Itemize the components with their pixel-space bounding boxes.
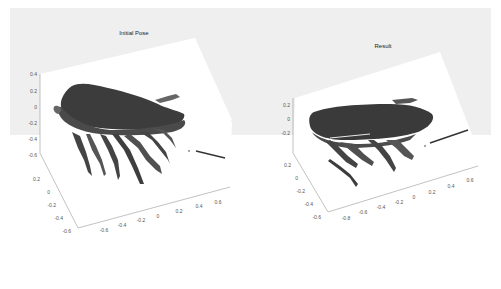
- svg-text:0.2: 0.2: [30, 88, 37, 94]
- figure-canvas: Initial Pose 0.4 0.2 0 -0.2 -0.4 -0.6 0.…: [0, 0, 501, 289]
- svg-text:0.4: 0.4: [196, 203, 203, 209]
- svg-text:0: 0: [287, 116, 290, 122]
- plot-title: Result: [374, 43, 391, 49]
- svg-text:-0.4: -0.4: [118, 222, 127, 228]
- svg-text:0.4: 0.4: [30, 71, 37, 77]
- svg-text:-0.8: -0.8: [342, 215, 351, 221]
- svg-text:-0.2: -0.2: [395, 199, 404, 205]
- svg-text:0.2: 0.2: [176, 208, 183, 214]
- svg-text:0.4: 0.4: [448, 183, 455, 189]
- svg-text:-0.4: -0.4: [304, 201, 313, 207]
- svg-text:-0.6: -0.6: [28, 152, 37, 158]
- svg-text:0: 0: [34, 104, 37, 110]
- svg-text:-0.6: -0.6: [312, 214, 321, 220]
- svg-text:-0.2: -0.2: [47, 202, 56, 208]
- svg-text:0: 0: [295, 175, 298, 181]
- svg-text:0: 0: [413, 194, 416, 200]
- svg-text:0.2: 0.2: [284, 162, 291, 168]
- svg-text:-0.4: -0.4: [28, 136, 37, 142]
- svg-text:-0.2: -0.2: [296, 188, 305, 194]
- svg-text:-0.4: -0.4: [54, 215, 63, 221]
- svg-text:-0.2: -0.2: [28, 120, 37, 126]
- svg-text:0: 0: [157, 213, 160, 219]
- svg-text:0: 0: [47, 189, 50, 195]
- x-axis-ticks: -0.6 -0.4 -0.2 0 0.2 0.4 0.6: [100, 199, 222, 233]
- svg-text:-0.6: -0.6: [62, 228, 71, 234]
- svg-text:0.2: 0.2: [33, 176, 40, 182]
- plot-title: Initial Pose: [119, 30, 149, 36]
- svg-text:-0.6: -0.6: [359, 209, 368, 215]
- svg-text:0.6: 0.6: [467, 177, 474, 183]
- svg-text:0.2: 0.2: [283, 102, 290, 108]
- svg-text:0.2: 0.2: [429, 189, 436, 195]
- svg-text:-0.4: -0.4: [377, 204, 386, 210]
- svg-text:-0.2: -0.2: [137, 217, 146, 223]
- svg-text:0.6: 0.6: [215, 199, 222, 205]
- svg-text:-0.2: -0.2: [281, 130, 290, 136]
- svg-text:-0.6: -0.6: [100, 227, 109, 233]
